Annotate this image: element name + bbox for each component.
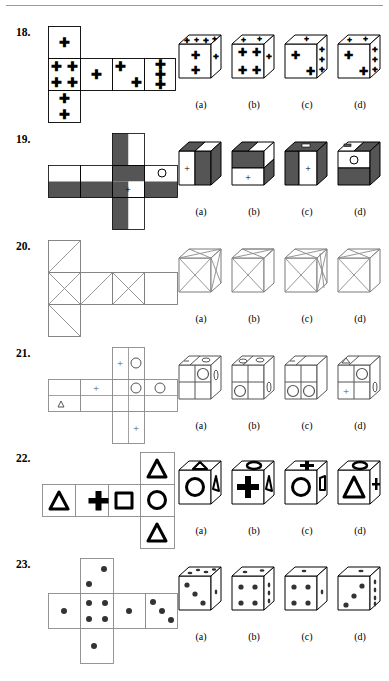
svg-text:✚: ✚ bbox=[347, 37, 352, 43]
net-diagram-23 bbox=[48, 558, 178, 666]
option-label-23-a: (a) bbox=[176, 631, 226, 642]
option-label-23-d: (d) bbox=[335, 631, 385, 642]
option-21-a[interactable]: (a) bbox=[176, 347, 226, 431]
option-label-19-d: (d) bbox=[335, 206, 385, 217]
question-block-21: 21. bbox=[0, 347, 389, 447]
option-23-c[interactable]: (c) bbox=[282, 558, 332, 642]
option-23-a[interactable]: (a) bbox=[176, 558, 226, 642]
option-19-d[interactable]: (d) bbox=[335, 133, 385, 217]
option-label-22-b: (b) bbox=[229, 525, 279, 536]
svg-text:+: + bbox=[343, 385, 349, 397]
svg-text:✚: ✚ bbox=[372, 66, 378, 74]
option-19-b[interactable]: + (b) bbox=[229, 133, 279, 217]
question-number-20: 20. bbox=[16, 240, 30, 252]
svg-text:✚: ✚ bbox=[344, 49, 353, 61]
option-22-b[interactable]: (b) bbox=[229, 452, 279, 536]
svg-text:+: + bbox=[184, 163, 190, 174]
option-label-23-b: (b) bbox=[229, 631, 279, 642]
svg-text:✚: ✚ bbox=[306, 65, 315, 77]
option-20-b[interactable]: (b) bbox=[229, 240, 279, 324]
option-label-23-c: (c) bbox=[282, 631, 332, 642]
svg-text:✚: ✚ bbox=[51, 59, 62, 74]
question-block-22: 22. bbox=[0, 452, 389, 552]
option-18-a[interactable]: ✚✚ ✚✚ ✚✚ ✚ (a) bbox=[176, 26, 226, 110]
option-label-22-c: (c) bbox=[282, 525, 332, 536]
option-label-19-a: (a) bbox=[176, 206, 226, 217]
svg-text:✚: ✚ bbox=[319, 56, 325, 64]
svg-text:+: + bbox=[133, 422, 139, 434]
option-label-21-d: (d) bbox=[335, 420, 385, 431]
options-row-23: (a) (b) bbox=[176, 558, 389, 646]
svg-text:✚: ✚ bbox=[194, 37, 199, 43]
svg-text:✚: ✚ bbox=[359, 65, 368, 77]
question-number-23: 23. bbox=[16, 558, 30, 570]
option-label-18-b: (b) bbox=[229, 99, 279, 110]
question-number-18: 18. bbox=[16, 26, 30, 38]
svg-text:+: + bbox=[125, 184, 131, 195]
svg-text:✚: ✚ bbox=[67, 59, 78, 74]
option-18-c[interactable]: ✚✚ ✚ ✚✚✚ (c) bbox=[282, 26, 332, 110]
option-23-d[interactable]: (d) bbox=[335, 558, 385, 642]
question-number-22: 22. bbox=[16, 452, 30, 464]
options-row-20: (a) (b) bbox=[176, 240, 389, 328]
net-diagram-18: ✚ ✚✚ ✚✚ ✚ ✚✚ ✚✚✚ ✚✚ bbox=[48, 26, 176, 130]
svg-text:✚: ✚ bbox=[266, 53, 272, 61]
svg-text:✚: ✚ bbox=[212, 36, 217, 42]
option-22-c[interactable]: (c) bbox=[282, 452, 332, 536]
worksheet-page: 18. ✚ ✚✚ ✚✚ ✚ ✚✚ ✚✚✚ ✚✚ bbox=[0, 0, 389, 681]
option-20-a[interactable]: (a) bbox=[176, 240, 226, 324]
svg-text:✚: ✚ bbox=[59, 35, 70, 50]
net-diagram-20 bbox=[48, 240, 178, 344]
option-21-b[interactable]: (b) bbox=[229, 347, 279, 431]
question-block-18: 18. ✚ ✚✚ ✚✚ ✚ ✚✚ ✚✚✚ ✚✚ bbox=[0, 26, 389, 126]
question-block-20: 20. bbox=[0, 240, 389, 340]
option-22-d[interactable]: (d) bbox=[335, 452, 385, 536]
svg-text:✚: ✚ bbox=[291, 49, 300, 61]
options-row-19: + (a) + (b) bbox=[176, 133, 389, 221]
svg-text:✚: ✚ bbox=[67, 75, 78, 90]
svg-text:✚: ✚ bbox=[191, 49, 200, 61]
option-label-18-d: (d) bbox=[335, 99, 385, 110]
question-number-19: 19. bbox=[16, 133, 30, 145]
svg-text:✚: ✚ bbox=[372, 46, 378, 54]
svg-text:✚: ✚ bbox=[241, 37, 246, 43]
option-21-c[interactable]: (c) bbox=[282, 347, 332, 431]
svg-text:✚: ✚ bbox=[184, 37, 190, 45]
option-label-21-b: (b) bbox=[229, 420, 279, 431]
option-label-18-c: (c) bbox=[282, 99, 332, 110]
option-label-19-b: (b) bbox=[229, 206, 279, 217]
svg-text:✚: ✚ bbox=[155, 77, 166, 92]
options-row-21: (a) (b) bbox=[176, 347, 389, 435]
option-21-d[interactable]: + (d) bbox=[335, 347, 385, 431]
net-diagram-19: + bbox=[48, 133, 178, 237]
svg-text:✚: ✚ bbox=[59, 91, 70, 106]
net-diagram-22 bbox=[42, 452, 180, 556]
svg-text:✚: ✚ bbox=[91, 67, 102, 82]
option-20-c[interactable]: (c) bbox=[282, 240, 332, 324]
svg-text:✚: ✚ bbox=[252, 46, 261, 58]
svg-text:✚: ✚ bbox=[257, 36, 262, 42]
svg-text:+: + bbox=[117, 357, 123, 369]
top-rule-divider bbox=[6, 5, 383, 6]
option-22-a[interactable]: (a) bbox=[176, 452, 226, 536]
option-19-a[interactable]: + (a) bbox=[176, 133, 226, 217]
option-18-d[interactable]: ✚✚ ✚✚ ✚✚✚ (d) bbox=[335, 26, 385, 110]
svg-text:✚: ✚ bbox=[252, 64, 261, 76]
svg-text:✚: ✚ bbox=[372, 56, 378, 64]
svg-text:✚: ✚ bbox=[51, 75, 62, 90]
option-label-21-c: (c) bbox=[282, 420, 332, 431]
options-row-18: ✚✚ ✚✚ ✚✚ ✚ (a) ✚✚ bbox=[176, 26, 389, 114]
option-23-b[interactable]: (b) bbox=[229, 558, 279, 642]
svg-text:✚: ✚ bbox=[238, 46, 247, 58]
option-label-20-d: (d) bbox=[335, 313, 385, 324]
question-block-23: 23. bbox=[0, 558, 389, 668]
svg-text:✚: ✚ bbox=[191, 64, 200, 76]
option-20-d[interactable]: (d) bbox=[335, 240, 385, 324]
option-18-b[interactable]: ✚✚ ✚✚ ✚✚ ✚ (b) bbox=[229, 26, 279, 110]
option-19-c[interactable]: + (c) bbox=[282, 133, 332, 217]
option-label-19-c: (c) bbox=[282, 206, 332, 217]
svg-text:✚: ✚ bbox=[131, 75, 142, 90]
question-block-19: 19. bbox=[0, 133, 389, 233]
option-label-21-a: (a) bbox=[176, 420, 226, 431]
svg-text:✚: ✚ bbox=[304, 36, 309, 42]
